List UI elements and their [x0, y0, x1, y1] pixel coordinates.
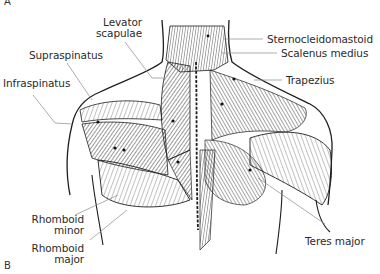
spine	[196, 62, 198, 230]
anatomy-figure: A B Levator scapulae Supraspinatus Infra…	[0, 0, 380, 274]
panel-letter-b: B	[4, 260, 11, 271]
label-teres-major: Teres major	[305, 236, 365, 247]
label-supraspinatus: Supraspinatus	[29, 50, 103, 61]
label-infraspinatus: Infraspinatus	[3, 78, 70, 89]
label-trapezius: Trapezius	[286, 75, 334, 86]
label-levator-scapulae: Levator scapulae	[96, 17, 142, 39]
label-sternocleidomastoid: Sternocleidomastoid	[267, 34, 373, 45]
right-back-muscles	[200, 150, 215, 250]
label-scalenus-medius: Scalenus medius	[281, 48, 368, 59]
label-rhomboid-minor: Rhomboid minor	[30, 214, 84, 236]
label-rhomboid-major: Rhomboid major	[30, 243, 84, 265]
supraspinatus-muscle	[80, 101, 162, 122]
panel-letter-a: A	[4, 0, 11, 7]
